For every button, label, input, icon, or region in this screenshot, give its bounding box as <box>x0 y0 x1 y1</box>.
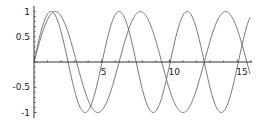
x-tick-label: 15 <box>236 67 247 77</box>
y-tick-label: -1 <box>21 108 30 118</box>
line-chart: 5101510.5-0.5-1 <box>0 0 265 122</box>
x-tick-label: 10 <box>169 67 181 77</box>
x-tick-label: 5 <box>101 67 107 77</box>
y-tick-label: 1 <box>24 7 30 17</box>
y-tick-label: -0.5 <box>12 82 30 92</box>
y-tick-label: 0.5 <box>16 32 30 42</box>
